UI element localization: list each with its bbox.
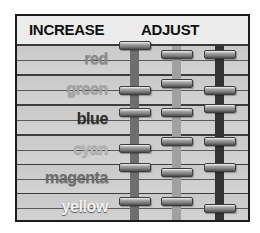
label-cyan: cyan	[73, 140, 108, 158]
slider-handle-3-magenta[interactable]	[204, 163, 236, 172]
slider-track-3[interactable]	[215, 46, 224, 222]
slider-handle-3-yellow[interactable]	[204, 204, 236, 213]
slider-handle-1-cyan[interactable]	[119, 144, 151, 153]
slider-handle-2-blue[interactable]	[161, 108, 193, 117]
slider-handle-2-green[interactable]	[161, 79, 193, 88]
color-adjust-panel: INCREASE ADJUST red green blue cyan mage…	[15, 14, 250, 222]
slider-handle-1-yellow[interactable]	[119, 197, 151, 206]
slider-handle-3-blue[interactable]	[204, 104, 236, 113]
slider-handle-3-red[interactable]	[204, 50, 236, 59]
slider-handle-3-green[interactable]	[204, 86, 236, 95]
slider-handle-2-red[interactable]	[161, 50, 193, 59]
slider-handle-1-green[interactable]	[119, 86, 151, 95]
label-green: green	[66, 80, 108, 98]
label-red: red	[84, 50, 108, 68]
label-blue: blue	[77, 110, 108, 128]
label-magenta: magenta	[45, 169, 108, 187]
slider-track-2[interactable]	[172, 46, 181, 222]
slider-track-1[interactable]	[130, 46, 139, 222]
label-yellow: yellow	[61, 198, 108, 216]
slider-handle-1-magenta[interactable]	[119, 163, 151, 172]
slider-handle-2-magenta[interactable]	[161, 168, 193, 177]
adjust-heading: ADJUST	[141, 21, 199, 38]
slider-handle-3-cyan[interactable]	[204, 137, 236, 146]
increase-heading: INCREASE	[29, 21, 104, 38]
slider-handle-1-red[interactable]	[119, 41, 151, 50]
slider-handle-1-blue[interactable]	[119, 108, 151, 117]
slider-handle-2-yellow[interactable]	[161, 197, 193, 206]
slider-handle-2-cyan[interactable]	[161, 137, 193, 146]
